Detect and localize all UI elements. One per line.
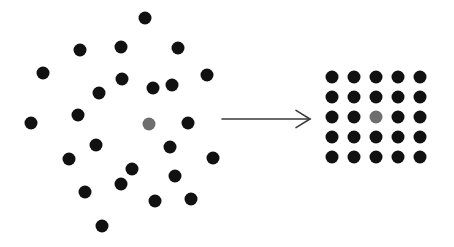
grid-dot <box>370 71 383 84</box>
scatter-dot <box>201 69 214 82</box>
scatter-dot <box>25 117 38 130</box>
scatter-dot <box>149 195 162 208</box>
scatter-dot <box>115 41 128 54</box>
scatter-dot <box>96 220 109 233</box>
grid-dot <box>392 111 405 124</box>
scatter-dot <box>90 139 103 152</box>
grid-dot <box>326 91 339 104</box>
scatter-dot <box>72 109 85 122</box>
background-rect <box>0 0 454 247</box>
scatter-dot <box>207 152 220 165</box>
grid-dot <box>370 131 383 144</box>
scatter-dot <box>166 79 179 92</box>
scatter-dot <box>115 178 128 191</box>
grid-dot <box>414 91 427 104</box>
grid-dot <box>348 111 361 124</box>
scatter-dot <box>79 186 92 199</box>
grid-dot <box>348 151 361 164</box>
scatter-highlight-dot <box>143 118 156 131</box>
grid-dot <box>392 91 405 104</box>
grid-dot <box>370 91 383 104</box>
figure-canvas <box>0 0 454 247</box>
scatter-dot <box>185 193 198 206</box>
scatter-dot <box>63 153 76 166</box>
grid-dot <box>348 71 361 84</box>
grid-dot <box>414 71 427 84</box>
grid-highlight-dot <box>370 111 383 124</box>
grid-dot <box>348 91 361 104</box>
grid-dot <box>414 151 427 164</box>
scatter-dot <box>182 117 195 130</box>
scatter-dot <box>139 12 152 25</box>
grid-dot <box>414 111 427 124</box>
grid-dot <box>326 71 339 84</box>
grid-dot <box>392 131 405 144</box>
grid-dot <box>326 131 339 144</box>
grid-dot <box>392 151 405 164</box>
grid-dot <box>326 111 339 124</box>
scatter-dot <box>164 141 177 154</box>
scatter-dot <box>116 73 129 86</box>
grid-dot <box>348 131 361 144</box>
scatter-dot <box>93 87 106 100</box>
scatter-dot <box>169 170 182 183</box>
grid-dot <box>392 71 405 84</box>
diagram-svg <box>0 0 454 247</box>
scatter-dot <box>126 163 139 176</box>
scatter-dot <box>74 44 87 57</box>
grid-dot <box>370 151 383 164</box>
grid-dot <box>414 131 427 144</box>
scatter-dot <box>147 82 160 95</box>
scatter-dot <box>172 42 185 55</box>
scatter-dot <box>37 67 50 80</box>
grid-dot <box>326 151 339 164</box>
